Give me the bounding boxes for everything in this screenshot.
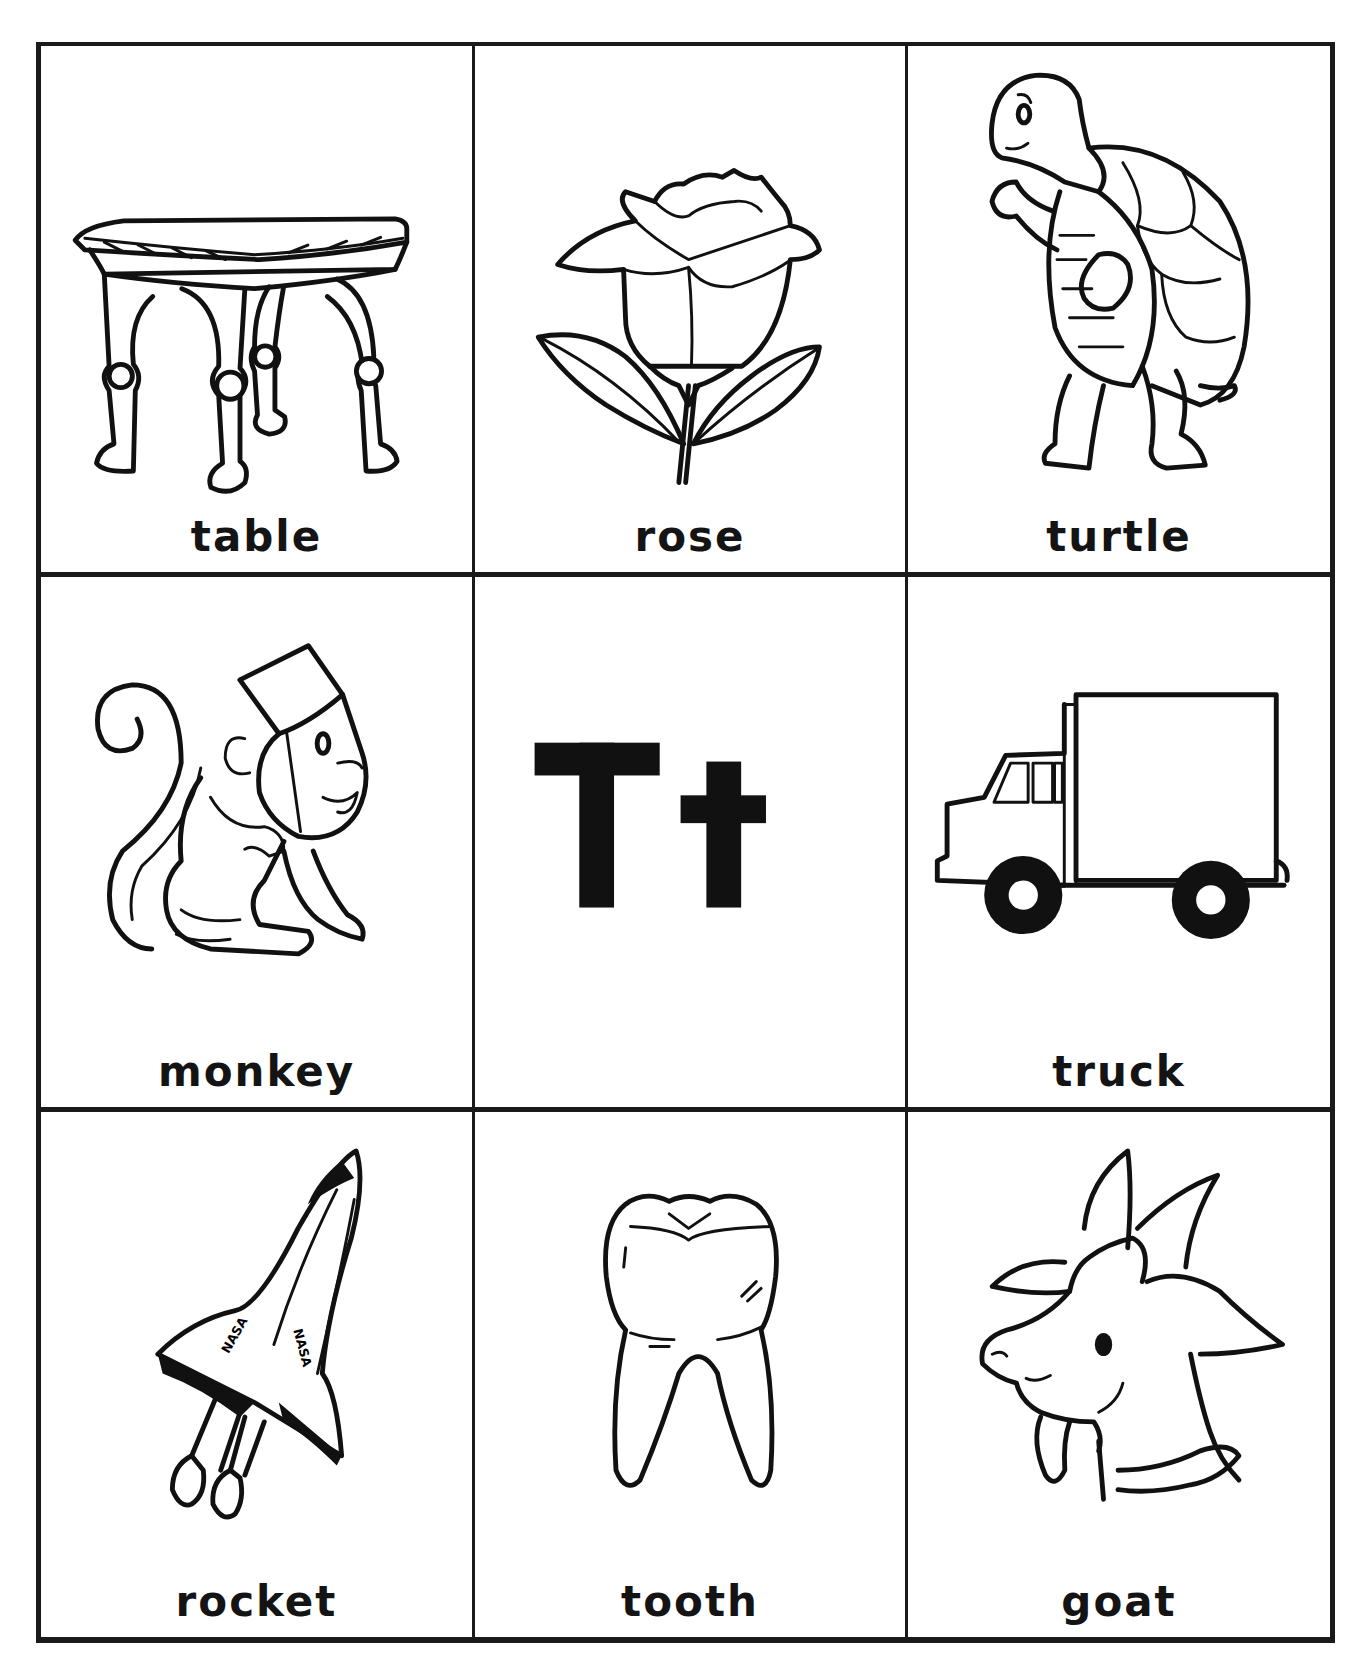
word-label: turtle <box>908 516 1330 558</box>
letter-tt-display <box>475 577 905 1107</box>
nasa-label: NASA <box>290 1327 315 1369</box>
card-table: table <box>41 46 475 577</box>
tooth-icon <box>475 1122 905 1567</box>
worksheet-frame: table <box>36 42 1335 1643</box>
picture-grid: table <box>41 46 1330 1637</box>
card-monkey: monkey <box>41 577 475 1112</box>
table-icon <box>41 56 472 502</box>
word-label: table <box>41 516 472 558</box>
word-label: rose <box>475 516 905 558</box>
card-goat: goat <box>908 1112 1330 1637</box>
word-label: tooth <box>475 1581 905 1623</box>
card-letter-tt: Tt <box>475 577 908 1112</box>
nasa-label: NASA <box>218 1314 251 1356</box>
card-tooth: tooth <box>475 1112 908 1637</box>
word-label: truck <box>908 1051 1330 1093</box>
rocket-icon: NASA NASA <box>41 1122 472 1567</box>
card-rose: rose <box>475 46 908 577</box>
word-label: monkey <box>41 1051 472 1093</box>
card-truck: truck <box>908 577 1330 1112</box>
word-label: rocket <box>41 1581 472 1623</box>
truck-icon <box>908 587 1330 1037</box>
word-label: goat <box>908 1581 1330 1623</box>
turtle-icon <box>908 56 1330 502</box>
rose-icon <box>475 56 905 502</box>
monkey-icon <box>41 587 472 1037</box>
card-rocket: NASA NASA rocket <box>41 1112 475 1637</box>
letter-tt-text: Tt <box>905 577 906 578</box>
card-turtle: turtle <box>908 46 1330 577</box>
goat-icon <box>908 1122 1330 1567</box>
